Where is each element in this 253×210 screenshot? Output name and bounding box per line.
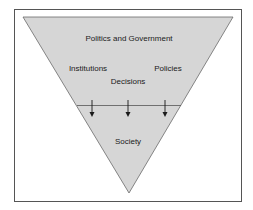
politics-and-government-label: Politics and Government: [85, 34, 173, 43]
institutions-label: Institutions: [69, 64, 107, 73]
society-label: Society: [115, 137, 141, 146]
policies-label: Policies: [154, 64, 182, 73]
politics-society-diagram: Politics and Government Institutions Dec…: [0, 0, 253, 210]
decisions-label: Decisions: [111, 77, 146, 86]
